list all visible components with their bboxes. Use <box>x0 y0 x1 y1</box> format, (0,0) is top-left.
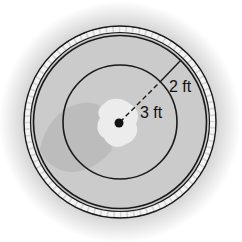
center-point <box>115 119 124 128</box>
circle-diagram: 2 ft 3 ft <box>0 0 242 242</box>
ring-width-label: 2 ft <box>169 78 192 95</box>
diagram-canvas: 2 ft 3 ft <box>0 0 242 242</box>
inner-radius-label: 3 ft <box>140 104 163 121</box>
